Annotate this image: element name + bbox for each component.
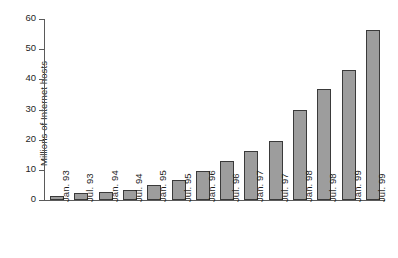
y-tick-label-wrap: 40 [8,79,36,80]
y-tick-label: 60 [12,13,36,23]
y-tick-label-wrap: 50 [8,49,36,50]
y-tick-label-wrap: 0 [8,200,36,201]
y-tick-label: 50 [12,43,36,53]
internet-hosts-bar-chart: Millions of Internet hosts 0102030405060… [0,0,398,258]
x-tick-label: Jul. 99 [376,144,387,202]
x-tick-label: Jan. 97 [254,144,265,202]
x-tick-label: Jul. 95 [182,144,193,202]
y-tick-label-wrap: 10 [8,170,36,171]
y-tick-label: 0 [12,194,36,204]
y-tick-label: 30 [12,104,36,114]
y-tick-mark [39,200,44,201]
x-tick-label: Jan. 95 [157,144,168,202]
x-tick-label: Jan. 98 [303,144,314,202]
x-tick-label: Jan. 93 [60,144,71,202]
y-tick-label-wrap: 60 [8,19,36,20]
x-tick-label: Jan. 96 [206,144,217,202]
x-tick-label: Jul. 93 [84,144,95,202]
y-tick-label: 20 [12,134,36,144]
y-tick-label: 40 [12,73,36,83]
x-tick-label: Jan. 94 [109,144,120,202]
y-tick-label-wrap: 20 [8,140,36,141]
x-tick-label: Jul. 98 [327,144,338,202]
x-tick-label: Jul. 94 [133,144,144,202]
y-tick-label: 10 [12,164,36,174]
x-tick-label: Jan. 99 [352,144,363,202]
x-tick-label: Jul. 97 [279,144,290,202]
x-tick-label: Jul. 96 [230,144,241,202]
x-axis-labels: Jan. 93Jul. 93Jan. 94Jul. 94Jan. 95Jul. … [44,202,385,258]
y-tick-label-wrap: 30 [8,110,36,111]
